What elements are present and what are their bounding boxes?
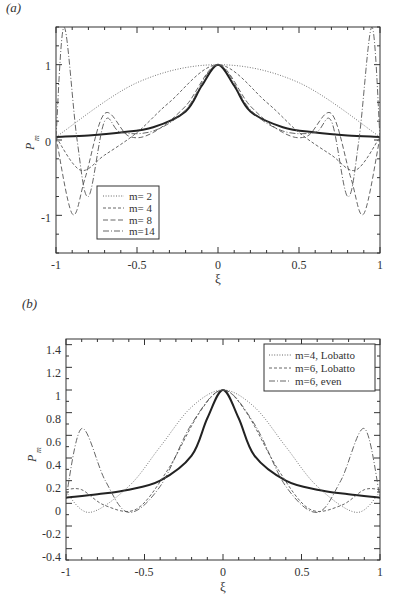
x-tick-label: 1: [377, 258, 383, 272]
legend-b: m=4, Lobatto m=6, Lobatto m=6, even: [264, 344, 375, 391]
legend-a: m= 2 m= 4 m= 8 m=14: [97, 186, 159, 239]
y-tick-label: -0.2: [42, 527, 61, 541]
svg-text:P: P: [25, 454, 39, 463]
x-axis-label-b: ξ: [220, 579, 226, 594]
legend-entry: m=14: [129, 225, 155, 237]
legend-entry: m= 2: [129, 190, 152, 202]
y-tick-labels-a: 1 0 -1: [41, 59, 51, 225]
curve-target: [56, 65, 380, 137]
panel-a: (a) -1 -0.5 0 0.5 1 1 0 -1 ξ P m m= 2 m: [6, 0, 383, 286]
y-tick-label: -1: [41, 211, 51, 225]
x-tick-label: -0.5: [128, 258, 147, 272]
x-tick-label: -1: [51, 258, 61, 272]
x-tick-label: 1: [377, 565, 383, 579]
legend-entry: m=4, Lobatto: [295, 349, 355, 361]
svg-text:m: m: [32, 135, 41, 141]
y-tick-label: 0: [55, 504, 61, 518]
y-axis-label-b: P m: [25, 447, 43, 463]
figure: (a) -1 -0.5 0 0.5 1 1 0 -1 ξ P m m= 2 m: [0, 0, 401, 610]
x-tick-labels-a: -1 -0.5 0 0.5 1: [51, 258, 383, 272]
y-tick-label: 1.4: [46, 343, 61, 357]
y-tick-label: 1: [45, 59, 51, 73]
y-tick-label: 1.2: [46, 366, 61, 380]
y-tick-label: 0.8: [46, 412, 61, 426]
y-axis-label-a: P m: [23, 135, 41, 151]
curve-m-4-lobatto: [66, 390, 380, 512]
curves-b: [66, 390, 380, 512]
panel-a-label: (a): [6, 0, 21, 15]
y-tick-label: 0.2: [46, 481, 61, 495]
curve-m-4: [56, 65, 380, 171]
legend-entry: m= 4: [129, 202, 153, 214]
y-tick-label: 0: [45, 135, 51, 149]
curve-m-2: [56, 65, 380, 137]
legend-entry: m=6, even: [295, 375, 342, 387]
y-tick-label: 1: [55, 389, 61, 403]
curve-target: [66, 390, 380, 498]
y-tick-label: -0.4: [42, 550, 61, 564]
x-tick-label: -1: [61, 565, 71, 579]
x-tick-label: 0.5: [292, 258, 307, 272]
x-axis-label-a: ξ: [215, 271, 221, 286]
panel-b-label: (b): [22, 296, 37, 311]
y-tick-label: 0.4: [46, 458, 61, 472]
x-tick-label: 0: [220, 565, 226, 579]
svg-text:m: m: [34, 447, 43, 453]
x-tick-label: 0: [215, 258, 221, 272]
svg-text:P: P: [23, 142, 37, 151]
x-tick-labels-b: -1 -0.5 0 0.5 1: [61, 565, 383, 579]
x-tick-label: 0.5: [295, 565, 310, 579]
curve-m-6-even: [66, 390, 380, 512]
curve-m-14: [56, 27, 380, 197]
x-tick-label: -0.5: [135, 565, 154, 579]
y-tick-label: 0.6: [46, 435, 61, 449]
panel-b: (b) -1 -0.5 0 0.5 1 1.4 1.2 1 0.8 0.6 0.…: [22, 296, 383, 594]
legend-entry: m=6, Lobatto: [295, 362, 355, 374]
y-tick-labels-b: 1.4 1.2 1 0.8 0.6 0.4 0.2 0 -0.2 -0.4: [42, 343, 61, 564]
